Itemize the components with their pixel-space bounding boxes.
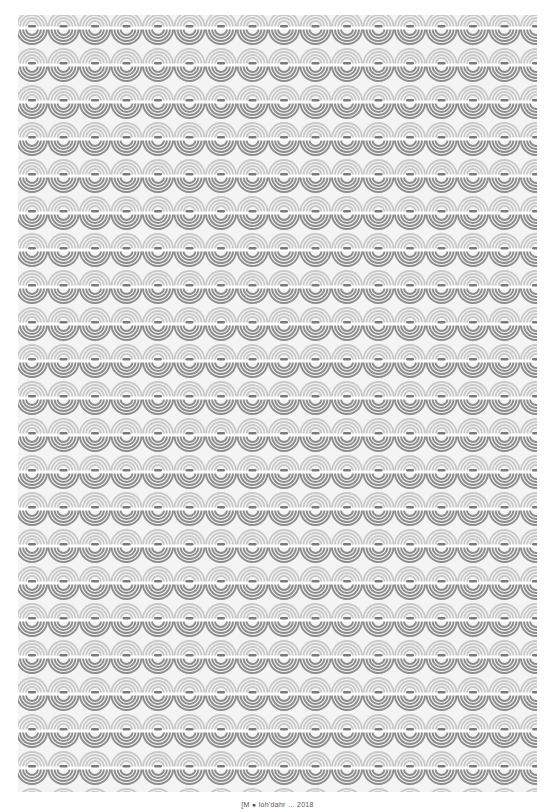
arc-pattern-graphic (18, 15, 537, 792)
pattern-artwork (18, 15, 537, 792)
image-caption: [M ● loh'dahr ... 2018 (0, 801, 555, 808)
